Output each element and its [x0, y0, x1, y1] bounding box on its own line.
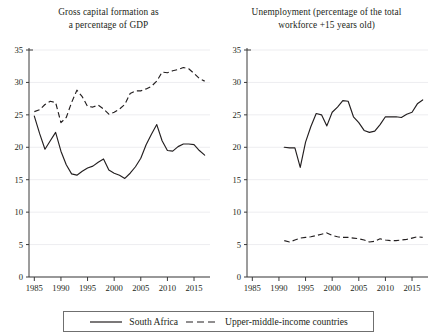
x-tick-label: 1985 [26, 283, 43, 293]
panel-unemployment: Unemployment (percentage of the total wo… [218, 0, 435, 300]
series-line-solid [284, 100, 422, 167]
x-tick-label: 2010 [377, 283, 394, 293]
legend-label-upper-middle-income: Upper-middle-income countries [225, 316, 348, 327]
y-tick-label: 0 [237, 272, 241, 282]
y-tick-label: 20 [232, 142, 241, 152]
solid-line-swatch [89, 318, 123, 326]
legend-label-south-africa: South Africa [129, 316, 178, 327]
y-tick-label: 20 [14, 142, 23, 152]
x-tick-label: 2005 [132, 283, 149, 293]
plot-area-left: 0510152025303519851990199520002005201020… [0, 0, 217, 300]
y-tick-label: 5 [237, 240, 241, 250]
x-tick-label: 2015 [185, 283, 202, 293]
legend-item-upper-middle-income: Upper-middle-income countries [185, 316, 348, 327]
y-tick-label: 10 [232, 207, 241, 217]
x-tick-label: 2005 [350, 283, 367, 293]
y-tick-label: 25 [232, 110, 241, 120]
x-tick-label: 2000 [324, 283, 341, 293]
y-tick-label: 25 [14, 110, 23, 120]
y-tick-label: 0 [19, 272, 23, 282]
dashed-line-swatch [185, 318, 219, 326]
x-tick-label: 1995 [297, 283, 314, 293]
x-tick-label: 1990 [52, 283, 69, 293]
y-tick-label: 30 [232, 77, 241, 87]
figure-two-panel-line-charts: Gross capital formation as a percentage … [0, 0, 435, 335]
x-tick-label: 1995 [79, 283, 96, 293]
x-tick-label: 2010 [159, 283, 176, 293]
x-tick-label: 2000 [106, 283, 123, 293]
y-tick-label: 30 [14, 77, 23, 87]
y-tick-label: 35 [14, 45, 23, 55]
panel-gross-capital-formation: Gross capital formation as a percentage … [0, 0, 217, 300]
x-tick-label: 1985 [244, 283, 261, 293]
y-tick-label: 5 [19, 240, 23, 250]
x-tick-label: 1990 [270, 283, 287, 293]
y-tick-label: 15 [14, 175, 23, 185]
y-tick-label: 15 [232, 175, 241, 185]
y-tick-label: 10 [14, 207, 23, 217]
x-tick-label: 2015 [403, 283, 420, 293]
plot-area-right: 0510152025303519851990199520002005201020… [218, 0, 435, 300]
legend: South Africa Upper-middle-income countri… [63, 311, 374, 332]
y-tick-label: 35 [232, 45, 241, 55]
legend-item-south-africa: South Africa [89, 316, 178, 327]
series-line-dashed [284, 233, 422, 242]
